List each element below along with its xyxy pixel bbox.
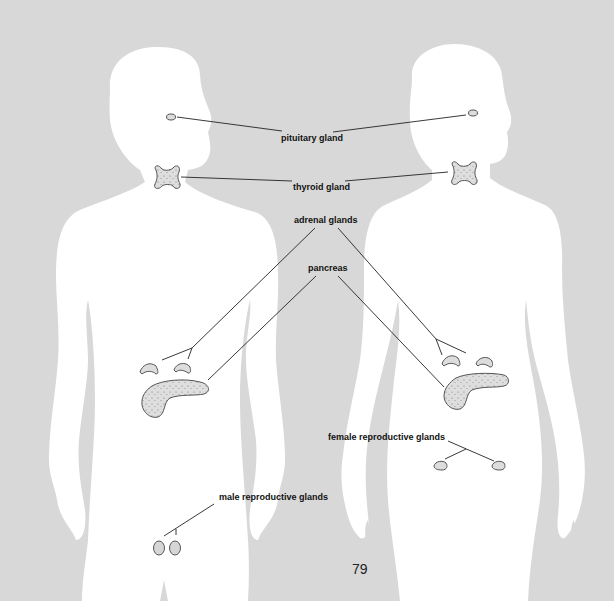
label-female-reproductive-glands: female reproductive glands bbox=[328, 433, 445, 442]
female-reproductive-gland-left bbox=[434, 461, 447, 470]
label-pancreas: pancreas bbox=[308, 264, 348, 273]
male-pituitary-gland bbox=[167, 114, 176, 120]
diagram-artwork bbox=[0, 0, 614, 601]
female-silhouette bbox=[341, 44, 584, 601]
label-adrenal-glands: adrenal glands bbox=[294, 216, 358, 225]
male-reproductive-gland-left bbox=[154, 541, 165, 555]
female-pituitary-gland bbox=[469, 110, 478, 116]
label-male-reproductive-glands: male reproductive glands bbox=[219, 493, 328, 502]
female-reproductive-gland-right bbox=[492, 461, 505, 470]
label-thyroid-gland: thyroid gland bbox=[293, 183, 350, 192]
male-reproductive-gland-right bbox=[170, 541, 181, 555]
male-silhouette bbox=[49, 47, 285, 601]
endocrine-glands-diagram: pituitary gland thyroid gland adrenal gl… bbox=[0, 0, 614, 601]
page-number: 79 bbox=[352, 562, 368, 576]
label-pituitary-gland: pituitary gland bbox=[281, 134, 343, 143]
